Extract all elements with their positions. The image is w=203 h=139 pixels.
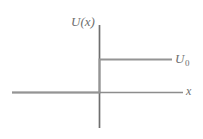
step-height-subscript: 0 — [185, 58, 190, 68]
x-axis-label: x — [186, 85, 191, 97]
step-potential-figure: U(x) U0 x — [0, 0, 203, 139]
potential-step-curve — [12, 60, 172, 93]
step-height-symbol: U — [175, 51, 184, 66]
step-height-label: U0 — [175, 52, 189, 65]
y-axis-label: U(x) — [71, 15, 95, 28]
potential-plot-svg — [0, 0, 203, 139]
